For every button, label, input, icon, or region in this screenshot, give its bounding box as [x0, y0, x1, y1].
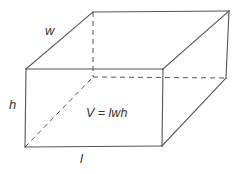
height-label: h: [9, 98, 16, 111]
back-top-edge: [93, 11, 229, 12]
bottom-right-depth-edge: [162, 78, 226, 146]
width-label: w: [45, 24, 54, 37]
back-right-edge: [226, 11, 229, 78]
rectangular-prism-diagram: [0, 0, 239, 174]
top-right-depth-edge: [163, 11, 229, 69]
hidden-back-bottom-edge: [93, 77, 226, 78]
hidden-bottom-left-depth-edge: [25, 77, 93, 147]
front-right-edge: [162, 69, 163, 146]
volume-formula-label: V = lwh: [86, 107, 127, 120]
front-bottom-edge: [25, 146, 162, 147]
length-label: l: [80, 152, 83, 165]
front-left-edge: [25, 69, 26, 147]
top-left-depth-edge: [26, 12, 93, 69]
